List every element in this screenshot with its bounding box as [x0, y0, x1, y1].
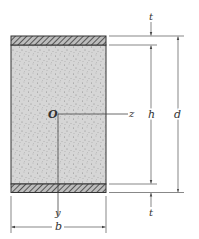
z-axis-label: z — [128, 108, 135, 119]
h-label: h — [148, 108, 155, 121]
sandwich-section-diagram: t h d t O z y b — [0, 0, 199, 239]
y-axis-label: y — [54, 207, 61, 218]
d-label: d — [174, 108, 181, 121]
top-face-plate — [11, 36, 106, 45]
b-label: b — [55, 220, 62, 233]
origin-label: O — [48, 108, 58, 121]
core — [11, 45, 106, 184]
t-top-label: t — [149, 11, 154, 22]
t-bottom-label: t — [149, 207, 154, 218]
bottom-face-plate — [11, 184, 106, 193]
